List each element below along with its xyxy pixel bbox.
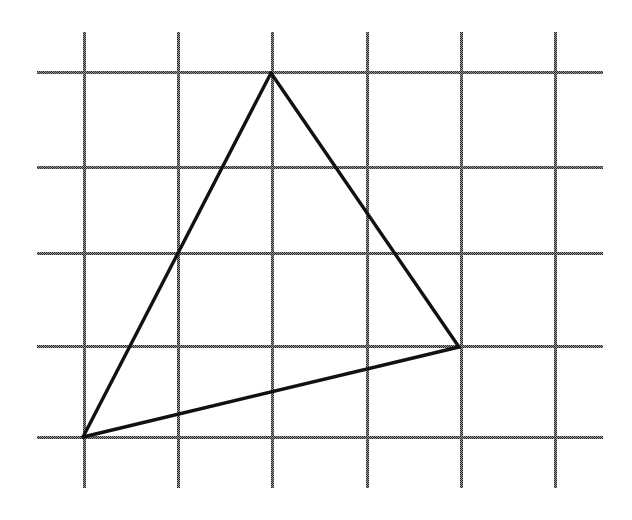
triangle-edge-top-right — [271, 73, 459, 347]
grid — [37, 32, 603, 488]
grid-diagram — [0, 0, 632, 520]
